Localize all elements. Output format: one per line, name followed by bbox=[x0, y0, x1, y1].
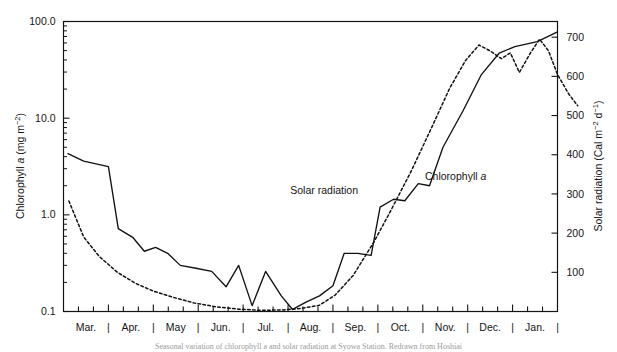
x-axis-month-label-oct: Oct. bbox=[391, 321, 410, 333]
right-axis-tick-label: 300 bbox=[567, 188, 585, 200]
x-axis-month-label-mar: Mar. bbox=[76, 321, 96, 333]
x-axis-month-label-aug: Aug. bbox=[300, 321, 322, 333]
series-annotations: Chlorophyll aSolar radiation bbox=[290, 170, 486, 196]
x-axis-month-separator: | bbox=[287, 321, 290, 333]
x-axis-month-separator: | bbox=[197, 321, 200, 333]
left-axis-tick-label: 10.0 bbox=[35, 112, 56, 124]
right-axis-tick-label: 700 bbox=[567, 31, 585, 43]
x-axis-month-separator: | bbox=[511, 321, 514, 333]
chlorophyll-solar-radiation-chart: 100.010.01.00.1 700600500400300200100 Ma… bbox=[0, 0, 617, 352]
x-axis-month-label-jul: Jul. bbox=[257, 321, 273, 333]
left-axis-tick-label: 100.0 bbox=[29, 15, 55, 27]
right-axis: 700600500400300200100 bbox=[552, 31, 585, 278]
x-axis-month-separator: | bbox=[556, 321, 559, 333]
figure-caption: Seasonal variation of chlorophyll a and … bbox=[0, 341, 617, 352]
series-solar-radiation bbox=[69, 39, 578, 310]
right-axis-tick-label: 400 bbox=[567, 148, 585, 160]
x-axis-month-label-nov: Nov. bbox=[435, 321, 456, 333]
right-axis-tick-label: 200 bbox=[567, 227, 585, 239]
x-axis-month-separator: | bbox=[242, 321, 245, 333]
left-axis-title: Chlorophyll a (mg m−2) bbox=[13, 113, 27, 219]
x-axis-month-separator: | bbox=[332, 321, 335, 333]
x-axis-month-separator: | bbox=[107, 321, 110, 333]
left-axis-tick-label: 0.1 bbox=[41, 305, 56, 317]
x-axis-month-label-may: May bbox=[166, 321, 187, 333]
plot-frame-group bbox=[64, 22, 558, 312]
plot-frame bbox=[64, 22, 558, 312]
series-lines bbox=[68, 32, 578, 310]
x-axis-month-label-apr: Apr. bbox=[122, 321, 141, 333]
x-axis-month-label-jan: Jan. bbox=[525, 321, 545, 333]
right-axis-tick-label: 600 bbox=[567, 70, 585, 82]
x-axis-month-separator: | bbox=[466, 321, 469, 333]
annotation-solar-radiation: Solar radiation bbox=[290, 184, 358, 196]
x-axis-month-label-jun: Jun. bbox=[211, 321, 231, 333]
x-axis-month-separator: | bbox=[152, 321, 155, 333]
right-axis-title: Solar radiation (Cal m−2 d−1) bbox=[591, 101, 605, 232]
left-axis-tick-label: 1.0 bbox=[41, 208, 56, 220]
x-axis-month-label-dec: Dec. bbox=[479, 321, 501, 333]
right-axis-tick-label: 100 bbox=[567, 266, 585, 278]
annotation-chlorophyll-a: Chlorophyll a bbox=[425, 170, 486, 182]
x-axis-month-separator: | bbox=[421, 321, 424, 333]
x-axis-month-label-sep: Sep. bbox=[345, 321, 367, 333]
x-axis-month-separator: | bbox=[376, 321, 379, 333]
right-axis-tick-label: 500 bbox=[567, 109, 585, 121]
figure-root: 100.010.01.00.1 700600500400300200100 Ma… bbox=[0, 0, 617, 352]
x-axis: Mar.|Apr.|May|Jun.|Jul.|Aug.|Sep.|Oct.|N… bbox=[76, 305, 559, 333]
